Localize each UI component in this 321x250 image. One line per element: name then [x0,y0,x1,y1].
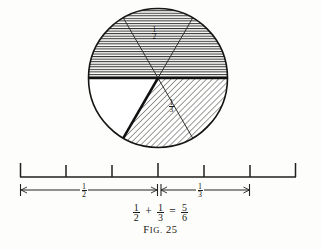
pie-label-one-half-denominator: 2 [152,34,157,41]
equation-term-five-sixths: 5 6 [181,203,187,222]
figure-caption: FIG. 25 [0,224,321,235]
equation-plus-operator: + [143,205,155,217]
pie-label-one-third: 1 3 [169,100,174,115]
span-arrows-group [21,184,250,196]
figure-caption-number: 25 [166,224,178,235]
span-label-one-third: 1 3 [196,183,204,199]
figure-caption-small: IG. [150,225,163,235]
equation-term-one-half: 1 2 [133,203,139,222]
span-label-one-third-denominator: 3 [198,191,203,198]
equation-equals-operator: = [167,205,179,217]
equation-left-denominator: 2 [133,213,139,222]
equation-line: 1 2 + 1 3 = 5 6 [0,203,321,222]
upper-half-shading-group [89,9,228,78]
equation-mid-denominator: 3 [157,213,163,222]
equation-right-denominator: 6 [181,213,187,222]
pie-label-one-half: 1 2 [152,27,157,42]
equation-term-one-third: 1 3 [157,203,163,222]
number-line-group [20,163,296,177]
pie-label-one-third-denominator: 3 [169,107,174,114]
span-label-one-half-denominator: 2 [82,191,87,198]
span-label-one-half: 1 2 [80,183,88,199]
figure-container: 1 2 1 3 1 2 1 3 1 2 + 1 3 = [0,0,321,250]
